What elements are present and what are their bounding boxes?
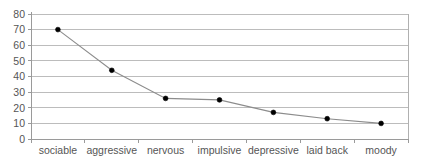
x-tick-label-aggressive: aggressive	[86, 144, 137, 156]
x-tick-marks	[31, 139, 408, 143]
x-axis-tick-labels: sociable aggressive nervous impulsive de…	[39, 144, 398, 156]
data-point-nervous[interactable]	[163, 96, 168, 101]
x-tick-label-nervous: nervous	[147, 144, 184, 156]
y-tick-label: 80	[13, 8, 25, 20]
data-point-moody[interactable]	[379, 121, 384, 126]
y-tick-label: 30	[13, 86, 25, 98]
y-tick-label: 60	[13, 39, 25, 51]
line-chart: 80 70 60 50 40 30 20 10 0	[0, 0, 423, 166]
data-point-aggressive[interactable]	[109, 68, 114, 73]
chart-canvas: 80 70 60 50 40 30 20 10 0	[0, 0, 423, 166]
x-tick-label-depressive: depressive	[248, 144, 299, 156]
data-point-sociable[interactable]	[56, 27, 61, 32]
x-tick-label-impulsive: impulsive	[198, 144, 242, 156]
y-tick-label: 40	[13, 70, 25, 82]
y-tick-label: 50	[13, 55, 25, 67]
y-tick-label: 70	[13, 23, 25, 35]
y-tick-label: 20	[13, 102, 25, 114]
y-tick-label: 0	[19, 133, 25, 145]
x-tick-label-moody: moody	[365, 144, 397, 156]
data-point-laid-back[interactable]	[325, 116, 330, 121]
data-point-impulsive[interactable]	[217, 98, 222, 103]
y-axis-tick-labels: 80 70 60 50 40 30 20 10 0	[13, 8, 25, 145]
y-tick-label: 10	[13, 117, 25, 129]
data-point-depressive[interactable]	[271, 110, 276, 115]
x-tick-label-sociable: sociable	[39, 144, 78, 156]
x-tick-label-laid-back: laid back	[306, 144, 348, 156]
